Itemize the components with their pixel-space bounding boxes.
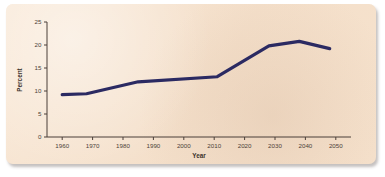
data-series-group xyxy=(62,41,330,94)
y-tick-label: 20 xyxy=(35,41,42,48)
x-tick-label: 1980 xyxy=(116,142,130,149)
x-axis-title: Year xyxy=(192,152,206,159)
y-axis: 0510152025 xyxy=(35,18,47,140)
x-tick-label: 1960 xyxy=(55,142,69,149)
x-tick-label: 1970 xyxy=(86,142,100,149)
x-tick-label: 2030 xyxy=(268,142,282,149)
x-tick-labels: 1960197019801990200020102020203020402050 xyxy=(55,142,343,149)
x-tick-label: 2040 xyxy=(299,142,313,149)
y-tick-label: 15 xyxy=(35,64,42,71)
x-tick-label: 2050 xyxy=(329,142,343,149)
x-tick-label: 2020 xyxy=(238,142,252,149)
x-axis: 1960197019801990200020102020203020402050 xyxy=(47,137,351,149)
x-tick-label: 1990 xyxy=(147,142,161,149)
y-tick-label: 25 xyxy=(35,18,42,25)
chart-figure: 0510152025 19601970198019902000201020202… xyxy=(0,0,385,177)
x-tick-label: 2000 xyxy=(177,142,191,149)
y-tick-label: 0 xyxy=(38,133,42,140)
y-axis-title: Percent xyxy=(16,67,23,91)
data-line-percent xyxy=(62,41,330,94)
y-tick-label: 5 xyxy=(38,110,42,117)
line-chart-plot: 0510152025 19601970198019902000201020202… xyxy=(0,0,385,177)
x-tick-label: 2010 xyxy=(207,142,221,149)
y-tick-label: 10 xyxy=(35,87,42,94)
y-tick-labels: 0510152025 xyxy=(35,18,42,140)
